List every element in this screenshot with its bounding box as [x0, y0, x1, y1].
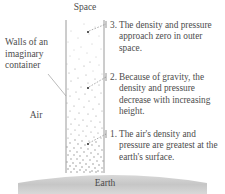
callout-2: 2. Because of gravity, the density and p…: [110, 72, 222, 118]
callout-1-text: The air's density and pressure are great…: [110, 129, 222, 163]
atmosphere-pressure-diagram: Space Walls of an imaginary container Ai…: [0, 0, 225, 194]
earth-label: Earth: [30, 178, 180, 189]
callout-1-number: 1.: [110, 129, 117, 140]
walls-of-container-label: Walls of an imaginary container: [5, 37, 69, 72]
callout-1-leader: [87, 130, 106, 145]
callout-2-number: 2.: [110, 72, 117, 83]
callout-3-number: 3.: [110, 20, 117, 31]
space-label: Space: [0, 2, 170, 13]
callout-3: 3. The density and pressure approach zer…: [110, 20, 222, 54]
callout-2-leader: [87, 73, 106, 89]
air-label: Air: [8, 110, 64, 121]
air-particles: [66, 24, 103, 173]
callout-3-text: The density and pressure approach zero i…: [110, 20, 222, 54]
callout-3-leader: [87, 21, 106, 33]
callout-1: 1. The air's density and pressure are gr…: [110, 129, 222, 163]
walls-leader-line: [48, 74, 66, 96]
callout-2-text: Because of gravity, the density and pres…: [110, 72, 222, 118]
